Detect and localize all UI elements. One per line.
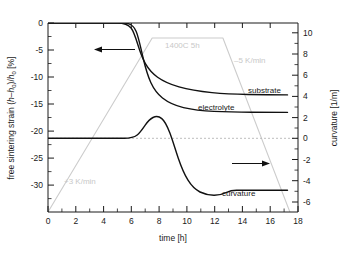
y-right-tick-label: -4 [303, 176, 311, 186]
y-left-tick-label: -20 [31, 126, 44, 136]
y-left-tick-label: -15 [31, 99, 44, 109]
y-right-axis-ticks [292, 33, 298, 202]
chart-canvas: 0 2 4 6 8 10 12 14 16 18 time [h] [0, 0, 350, 261]
x-tick-label: 14 [238, 216, 248, 226]
y-left-axis-title: free sintering strain (h–h0)/h0 [%] [6, 57, 17, 180]
x-tick-label: 4 [101, 216, 106, 226]
x-tick-label: 6 [129, 216, 134, 226]
y-right-tick-label: 8 [303, 49, 308, 59]
y-left-axis-ticks [48, 23, 54, 199]
annotation-heating-rate: +3 K/min [64, 177, 96, 186]
y-right-axis-title: curvature [1/m] [329, 90, 339, 147]
x-tick-label: 0 [46, 216, 51, 226]
curve-label-curvature: curvature [222, 189, 256, 198]
right-axis-arrow-icon [232, 161, 270, 167]
x-tick-label: 18 [293, 216, 303, 226]
x-tick-label: 12 [210, 216, 220, 226]
y-right-tick-label: -6 [303, 197, 311, 207]
y-left-tick-label: -25 [31, 153, 44, 163]
y-right-tick-label: 6 [303, 70, 308, 80]
x-tick-label: 10 [182, 216, 192, 226]
y-left-tick-label: -5 [35, 45, 43, 55]
y-right-tick-label: 0 [303, 133, 308, 143]
series-electrolyte-curve [48, 23, 288, 112]
x-tick-label: 2 [73, 216, 78, 226]
y-right-tick-label: -2 [303, 155, 311, 165]
y-right-tick-labels: 10 8 6 4 2 0 -2 -4 -6 [303, 28, 313, 207]
curve-label-electrolyte: electrolyte [198, 103, 235, 112]
y-right-tick-label: 10 [303, 28, 313, 38]
left-axis-arrow-icon [94, 47, 135, 53]
svg-text:free sintering strain (h–h0)/h: free sintering strain (h–h0)/h0 [%] [6, 57, 17, 180]
y-left-tick-label: -10 [31, 72, 44, 82]
curve-label-substrate: substrate [248, 86, 281, 95]
annotation-cooling-rate: –5 K/min [234, 56, 266, 65]
x-axis-title: time [h] [159, 233, 187, 243]
x-axis-tick-labels: 0 2 4 6 8 10 12 14 16 18 [46, 216, 303, 226]
x-tick-label: 8 [157, 216, 162, 226]
x-tick-label: 16 [265, 216, 275, 226]
y-right-tick-label: 4 [303, 91, 308, 101]
y-right-tick-label: 2 [303, 113, 308, 123]
annotation-hold-temperature: 1400C 5h [165, 41, 200, 50]
sintering-strain-curvature-chart: 0 2 4 6 8 10 12 14 16 18 time [h] [0, 0, 350, 261]
y-left-tick-labels: 0 -5 -10 -15 -20 -25 -30 [31, 18, 44, 190]
y-left-tick-label: 0 [38, 18, 43, 28]
y-left-tick-label: -30 [31, 180, 44, 190]
